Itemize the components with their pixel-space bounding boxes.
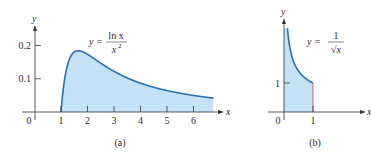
y-axis-arrow-b xyxy=(282,18,286,24)
x-tick-label-0-b: 0 xyxy=(276,115,281,126)
x-axis-arrow-b xyxy=(360,110,366,114)
figure: 0123456 0.1 0.2 x y (a) y = ln x x 2 1 0… xyxy=(0,0,371,155)
x-tick-label-3: 3 xyxy=(112,115,117,126)
y-axis-label-b: y xyxy=(280,6,286,17)
function-label-a: y = ln x x 2 xyxy=(88,30,127,55)
fraction-denominator-b: √x xyxy=(331,44,341,55)
x-tick-label-0: 0 xyxy=(27,115,32,126)
x-axis-label-a: x xyxy=(225,106,231,117)
panel-caption-a: (a) xyxy=(114,137,125,149)
x-tick-label-1-b: 1 xyxy=(311,115,316,126)
x-tick-label-1: 1 xyxy=(59,115,64,126)
x-axis-arrow-a xyxy=(218,110,224,114)
panel-b: 1 0 1 x y (b) y = 1 √x xyxy=(268,6,371,149)
x-axis-label-b: x xyxy=(366,106,371,117)
y-axis-label-a: y xyxy=(31,13,37,24)
panel-a: 0123456 0.1 0.2 x y (a) y = ln x x 2 xyxy=(19,13,232,149)
function-label-b: y = 1 √x xyxy=(306,30,344,55)
svg-text:y =: y = xyxy=(306,36,321,47)
x-tick-label-5: 5 xyxy=(165,115,170,126)
x-tick-label-2: 2 xyxy=(85,115,90,126)
y-axis-arrow-a xyxy=(33,25,37,31)
y-tick-label-0.1: 0.1 xyxy=(19,73,32,84)
svg-text:y =: y = xyxy=(88,36,103,47)
fraction-numerator-a: ln x xyxy=(108,30,123,41)
fraction-exponent-a: 2 xyxy=(118,42,122,50)
y-tick-label-1-b: 1 xyxy=(275,78,280,89)
panel-caption-b: (b) xyxy=(309,137,321,149)
x-tick-label-6: 6 xyxy=(191,115,196,126)
fraction-denominator-a: x xyxy=(111,44,117,55)
y-tick-label-0.2: 0.2 xyxy=(19,40,32,51)
fraction-numerator-b: 1 xyxy=(334,30,339,41)
x-tick-label-4: 4 xyxy=(138,115,143,126)
